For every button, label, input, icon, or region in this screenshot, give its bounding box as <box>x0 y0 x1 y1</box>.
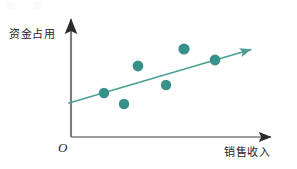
trend-line <box>69 50 251 104</box>
axes-group <box>71 19 271 137</box>
scatter-plot-figure: 资金占用 销售收入 O <box>0 0 297 169</box>
data-point <box>119 99 129 109</box>
x-axis-label: 销售收入 <box>224 146 270 159</box>
data-point <box>161 80 171 90</box>
origin-label: O <box>58 141 67 155</box>
data-point <box>210 55 221 66</box>
plot-canvas <box>0 0 297 169</box>
data-point <box>133 61 144 72</box>
data-point <box>178 43 189 54</box>
data-point <box>99 88 109 98</box>
trend-line-group <box>69 50 251 104</box>
y-axis-label: 资金占用 <box>9 28 55 41</box>
